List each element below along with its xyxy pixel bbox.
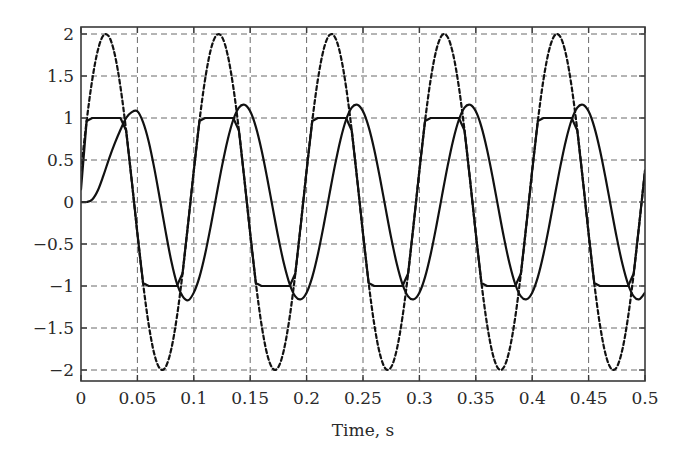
y-tick-label: 1.5 xyxy=(47,66,74,86)
y-tick-label: −1 xyxy=(49,276,74,296)
y-tick-label: 1 xyxy=(63,108,74,128)
y-tick-label: 2 xyxy=(63,24,74,44)
x-axis-tick-labels: 00.050.10.150.20.250.30.350.40.450.5 xyxy=(76,388,659,408)
y-tick-label: −2 xyxy=(49,360,74,380)
x-tick-label: 0.25 xyxy=(344,388,382,408)
grid-lines xyxy=(81,27,645,381)
x-tick-label: 0.05 xyxy=(118,388,156,408)
y-tick-label: 0.5 xyxy=(47,150,74,170)
x-axis-title: Time, s xyxy=(332,420,395,440)
y-tick-label: 0 xyxy=(63,192,74,212)
x-tick-label: 0.2 xyxy=(293,388,320,408)
x-tick-label: 0 xyxy=(76,388,87,408)
x-tick-label: 0.35 xyxy=(457,388,495,408)
line-chart: 00.050.10.150.20.250.30.350.40.450.5 21.… xyxy=(0,0,687,450)
y-tick-label: −0.5 xyxy=(33,234,74,254)
x-tick-label: 0.1 xyxy=(180,388,207,408)
x-tick-label: 0.15 xyxy=(231,388,269,408)
x-tick-label: 0.4 xyxy=(519,388,546,408)
x-tick-label: 0.3 xyxy=(406,388,433,408)
y-axis-tick-labels: 21.510.50−0.5−1−1.5−2 xyxy=(33,24,74,380)
y-tick-label: −1.5 xyxy=(33,318,74,338)
x-tick-label: 0.5 xyxy=(631,388,658,408)
x-tick-label: 0.45 xyxy=(570,388,608,408)
